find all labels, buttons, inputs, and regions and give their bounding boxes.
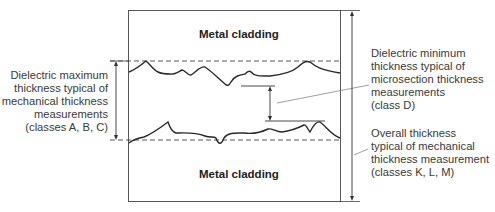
arrow-up-icon — [350, 11, 354, 16]
top-metal-cladding-label: Metal cladding — [199, 28, 279, 40]
min-thickness-annotation: Dielectric minimum thickness typical of … — [371, 47, 484, 112]
arrow-down-icon — [268, 116, 272, 121]
overall-leader-line — [354, 149, 368, 155]
top-interface-curve — [129, 61, 340, 85]
class-d-leader-line — [277, 85, 369, 103]
bottom-metal-cladding-label: Metal cladding — [199, 168, 279, 180]
overall-thickness-annotation: Overall thickness typical of mechanical … — [371, 127, 489, 179]
max-thickness-annotation: Dielectric maximum thickness typical of … — [0, 69, 108, 134]
arrow-up-icon — [114, 61, 118, 66]
arrow-down-icon — [350, 196, 354, 201]
arrow-down-icon — [114, 135, 118, 140]
arrow-up-icon — [268, 86, 272, 91]
